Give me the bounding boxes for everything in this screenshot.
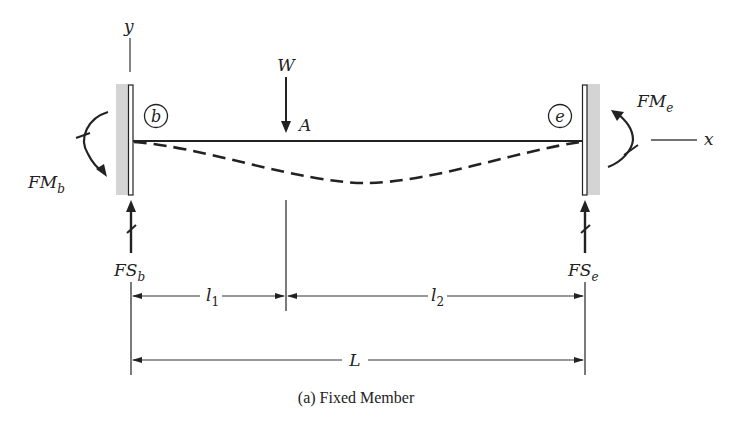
- shear-fs-b: FSb: [113, 200, 145, 284]
- down-arrow-icon: [281, 121, 291, 133]
- dimension-l2: l2: [288, 285, 583, 309]
- curved-arrow-icon: [84, 112, 108, 172]
- moment-fm-b: FMb: [27, 112, 108, 196]
- dimension-L: L: [133, 350, 583, 370]
- node-e: e: [549, 105, 572, 128]
- l1-label: l1: [206, 285, 219, 309]
- node-b-label: b: [151, 107, 161, 126]
- dimension-l1: l1: [133, 285, 284, 309]
- l2-label: l2: [431, 285, 444, 309]
- node-b: b: [145, 105, 168, 128]
- x-axis: x: [651, 129, 714, 149]
- up-arrow-icon: [580, 200, 590, 212]
- fixed-member-diagram: y x b e W A FMb: [0, 0, 749, 424]
- deflected-shape: [134, 142, 581, 183]
- x-axis-label: x: [704, 129, 714, 149]
- curved-arrow-icon: [608, 113, 633, 167]
- right-fixed-support: [583, 84, 601, 195]
- figure-caption: (a) Fixed Member: [298, 389, 415, 407]
- fm-b-label: FMb: [27, 172, 65, 196]
- load-w-label: W: [277, 55, 296, 75]
- fs-e-label: FSe: [567, 260, 599, 284]
- fm-e-label: FMe: [636, 91, 673, 115]
- up-arrow-icon: [126, 200, 136, 212]
- left-fixed-support: [116, 84, 133, 195]
- load-w: W A: [277, 55, 311, 135]
- y-axis-label: y: [123, 16, 134, 36]
- shear-fs-e: FSe: [567, 200, 599, 284]
- moment-fm-e: FMe: [608, 91, 673, 167]
- extension-lines: [131, 200, 585, 375]
- point-a-label: A: [297, 115, 311, 135]
- node-e-label: e: [555, 107, 564, 126]
- y-axis: y: [123, 16, 134, 72]
- L-label: L: [348, 350, 360, 370]
- fs-b-label: FSb: [113, 260, 145, 284]
